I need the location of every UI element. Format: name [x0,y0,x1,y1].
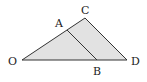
label-o: O [8,55,17,68]
label-c: C [81,4,89,17]
label-d: D [131,55,140,68]
geometry-diagram: O C A B D [0,0,147,82]
triangle-ocd-shaded [22,18,127,60]
label-a: A [54,17,64,30]
label-b: B [93,65,101,78]
